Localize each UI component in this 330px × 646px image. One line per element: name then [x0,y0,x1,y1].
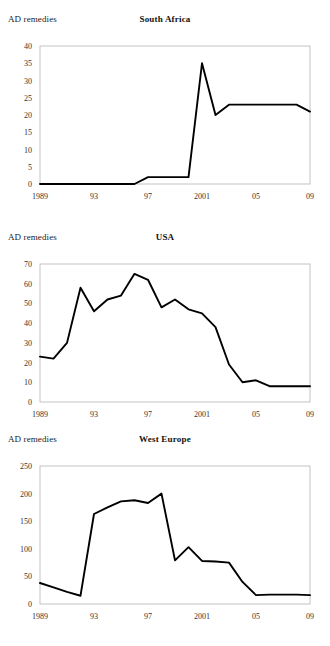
x-axis-tick-label: 09 [306,612,314,621]
y-axis-tick-label: 20 [2,111,32,120]
y-axis-tick-label: 250 [2,462,32,471]
chart-panel-west-europe: AD remedies West Europe 0501001502002501… [0,430,330,646]
y-axis-tick-label: 10 [2,145,32,154]
y-axis-tick-label: 0 [2,398,32,407]
x-axis-tick-label: 1989 [32,410,48,419]
x-axis-tick-label: 2001 [194,612,210,621]
y-axis-tick-label: 10 [2,378,32,387]
y-axis-tick-label: 0 [2,600,32,609]
x-axis-tick-label: 05 [252,612,260,621]
y-axis-tick-label: 15 [2,128,32,137]
y-axis-tick-label: 25 [2,93,32,102]
x-axis-tick-label: 05 [252,410,260,419]
data-series-line [40,63,310,184]
plot-svg [0,430,330,634]
plot-frame [40,264,310,402]
y-axis-tick-label: 50 [2,572,32,581]
y-axis-tick-label: 40 [2,42,32,51]
data-series-line [40,494,310,596]
y-axis-tick-label: 30 [2,338,32,347]
y-axis-tick-label: 0 [2,180,32,189]
x-axis-tick-label: 2001 [194,192,210,201]
x-axis-tick-label: 1989 [32,612,48,621]
x-axis-tick-label: 97 [144,410,152,419]
y-axis-tick-label: 40 [2,319,32,328]
x-axis-tick-label: 93 [90,410,98,419]
x-axis-tick-label: 09 [306,410,314,419]
plot-svg [0,228,330,432]
y-axis-tick-label: 70 [2,260,32,269]
x-axis-tick-label: 93 [90,192,98,201]
y-axis-tick-label: 100 [2,544,32,553]
y-axis-tick-label: 35 [2,59,32,68]
data-series-line [40,274,310,386]
x-axis-tick-label: 2001 [194,410,210,419]
x-axis-tick-label: 05 [252,192,260,201]
x-axis-tick-label: 09 [306,192,314,201]
x-axis-tick-label: 1989 [32,192,48,201]
chart-panel-usa: AD remedies USA 010203040506070198993972… [0,228,330,430]
chart-panel-south-africa: AD remedies South Africa 051015202530354… [0,0,330,228]
plot-svg [0,0,330,214]
y-axis-tick-label: 5 [2,162,32,171]
x-axis-tick-label: 97 [144,192,152,201]
x-axis-tick-label: 93 [90,612,98,621]
plot-frame [40,46,310,184]
y-axis-tick-label: 200 [2,489,32,498]
y-axis-tick-label: 30 [2,76,32,85]
y-axis-tick-label: 20 [2,358,32,367]
plot-frame [40,466,310,604]
y-axis-tick-label: 60 [2,279,32,288]
y-axis-tick-label: 150 [2,517,32,526]
y-axis-tick-label: 50 [2,299,32,308]
x-axis-tick-label: 97 [144,612,152,621]
